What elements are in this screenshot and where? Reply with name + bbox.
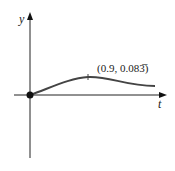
plot-area xyxy=(0,0,175,171)
t-axis-label: t xyxy=(158,97,161,112)
chart: y t (0.9, 0.083̅) xyxy=(0,0,175,171)
curve xyxy=(30,77,155,95)
peak-annotation: (0.9, 0.083̅) xyxy=(97,62,148,74)
y-axis-label: y xyxy=(19,12,24,27)
origin-dot xyxy=(27,92,34,99)
